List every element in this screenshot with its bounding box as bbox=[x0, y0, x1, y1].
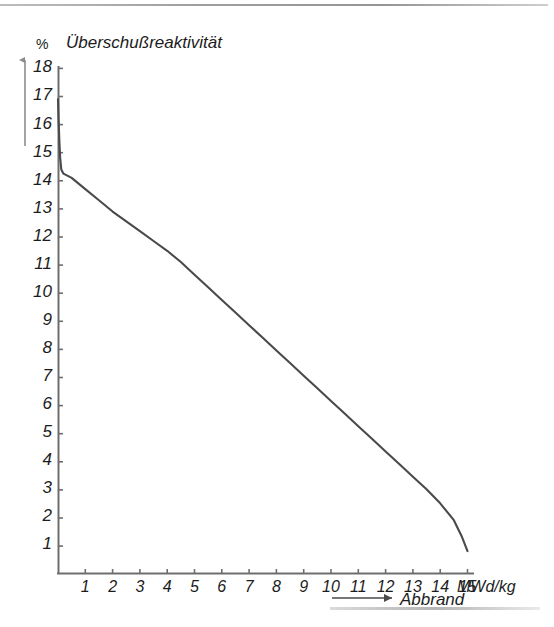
y-tick-label: 15 bbox=[22, 142, 52, 162]
x-tick-label: 4 bbox=[152, 578, 182, 596]
data-series-line bbox=[58, 99, 468, 551]
chart-page: % Überschußreaktivität MWd/kg Abbrand bbox=[0, 0, 554, 627]
y-tick-label: 12 bbox=[22, 226, 52, 246]
x-tick-label: 3 bbox=[125, 578, 155, 596]
x-tick-label: 9 bbox=[289, 578, 319, 596]
x-tick-label: 13 bbox=[398, 578, 428, 596]
x-tick-label: 7 bbox=[234, 578, 264, 596]
y-tick-label: 3 bbox=[22, 478, 52, 498]
y-tick-label: 10 bbox=[22, 282, 52, 302]
y-tick-label: 8 bbox=[22, 338, 52, 358]
y-tick-label: 7 bbox=[22, 366, 52, 386]
x-tick-label: 2 bbox=[98, 578, 128, 596]
x-tick-label: 6 bbox=[207, 578, 237, 596]
y-tick-label: 2 bbox=[22, 506, 52, 526]
x-tick-label: 14 bbox=[425, 578, 455, 596]
y-tick-label: 4 bbox=[22, 450, 52, 470]
x-tick-label: 11 bbox=[343, 578, 373, 596]
y-tick-label: 5 bbox=[22, 422, 52, 442]
x-tick-label: 15 bbox=[453, 578, 483, 596]
x-tick-label: 1 bbox=[70, 578, 100, 596]
chart-plot-area bbox=[0, 0, 554, 627]
y-tick-label: 9 bbox=[22, 310, 52, 330]
x-tick-label: 10 bbox=[316, 578, 346, 596]
y-tick-label: 14 bbox=[22, 170, 52, 190]
y-tick-label: 17 bbox=[22, 85, 52, 105]
y-tick-label: 13 bbox=[22, 198, 52, 218]
x-tick-label: 12 bbox=[371, 578, 401, 596]
x-tick-label: 8 bbox=[261, 578, 291, 596]
y-tick-label: 16 bbox=[22, 114, 52, 134]
y-tick-label: 6 bbox=[22, 394, 52, 414]
y-tick-label: 1 bbox=[22, 534, 52, 554]
y-tick-label: 18 bbox=[22, 57, 52, 77]
y-tick-label: 11 bbox=[22, 254, 52, 274]
x-tick-label: 5 bbox=[180, 578, 210, 596]
